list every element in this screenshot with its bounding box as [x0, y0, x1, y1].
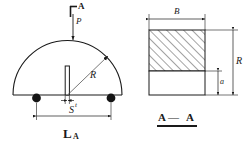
- height-label-r: R: [236, 56, 242, 66]
- section-mark-bottom-letter: L: [63, 127, 72, 140]
- center-slot-group: [65, 66, 69, 95]
- load-label-p: P: [76, 17, 82, 26]
- lower-height-label-a: a: [220, 78, 224, 86]
- section-title-right-letter: A: [186, 112, 194, 123]
- center-slot: [65, 66, 69, 95]
- radius-label-r: R: [90, 70, 96, 80]
- span-label-s: S: [69, 105, 74, 115]
- drawing-vector-layer: [0, 0, 244, 147]
- section-title-dash: —: [168, 112, 179, 123]
- dimension-b: [149, 14, 205, 30]
- section-mark-top-letter: A: [78, 2, 85, 11]
- section-rectangle-group: [149, 30, 205, 95]
- section-hatched-area: [149, 30, 205, 71]
- section-title-left-letter: A: [158, 112, 166, 123]
- dimension-t: [61, 96, 74, 104]
- section-mark-bottom-subletter: A: [73, 133, 79, 141]
- section-lower-area: [149, 71, 205, 95]
- radius-leader-line: [68, 56, 109, 95]
- width-label-b: B: [174, 7, 180, 16]
- support-right: [107, 94, 116, 103]
- slot-thickness-label-t: t: [75, 102, 77, 109]
- technical-drawing-canvas: A P R t S L A B R a A — A: [0, 0, 244, 147]
- support-left: [32, 94, 41, 103]
